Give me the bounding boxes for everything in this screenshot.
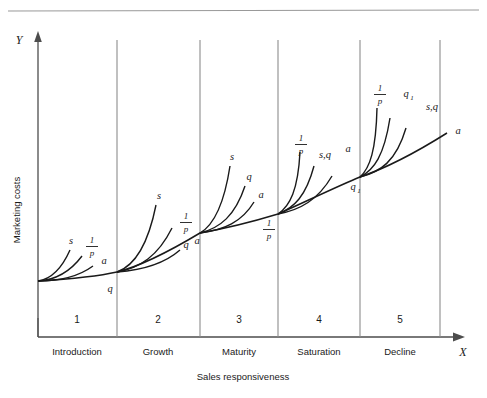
stage-name-decline: Decline: [384, 346, 416, 357]
branch-stage5-sq: [360, 128, 406, 177]
label-stage4-sq: s,q: [319, 149, 331, 160]
x-axis: [38, 333, 465, 342]
branch-stage4-sq: [278, 166, 314, 214]
label-stage1-s: s: [69, 235, 73, 246]
stage-number-4: 4: [316, 314, 322, 325]
node-label-stage5-q1: q 1: [350, 181, 360, 195]
x-axis-arrowhead: [453, 333, 465, 342]
node-label-stage4-inv-p: 1 p: [263, 218, 275, 241]
stage-name-maturity: Maturity: [222, 346, 256, 357]
stage-name-introduction: Introduction: [52, 346, 102, 357]
stage2-branches: [117, 205, 180, 272]
node-label-stage3-a: a: [194, 235, 199, 246]
figure-container: Y X Marketing costs Sales responsiveness…: [0, 0, 487, 398]
label-stage3-a: a: [258, 189, 263, 200]
branch-stage1-inv-p: [38, 256, 82, 281]
y-axis: [34, 31, 42, 337]
stage-number-2: 2: [155, 314, 161, 325]
x-axis-title: Sales responsiveness: [197, 371, 290, 382]
branch-stage1-s: [38, 250, 70, 281]
svg-text:1: 1: [267, 218, 272, 228]
svg-text:p: p: [89, 248, 95, 258]
y-axis-arrowhead: [34, 31, 42, 42]
branch-stage2-s: [117, 205, 156, 272]
label-stage4-inv-p: 1 p: [295, 133, 307, 156]
branch-stage4-a: [278, 176, 332, 214]
svg-text:p: p: [298, 146, 304, 156]
y-axis-title: Marketing costs: [11, 176, 22, 243]
svg-text:p: p: [377, 96, 383, 106]
marketing-costs-chart: Y X Marketing costs Sales responsiveness…: [0, 0, 487, 398]
label-stage3-q: q: [246, 171, 251, 182]
label-stage1-a: a: [101, 255, 106, 266]
stage5-branches: [360, 108, 406, 177]
label-stage5-inv-p: 1 p: [374, 83, 386, 106]
svg-text:1: 1: [90, 235, 95, 245]
label-stage4-a: a: [345, 143, 350, 154]
stage-name-growth: Growth: [143, 346, 174, 357]
label-stage3-s: s: [230, 151, 234, 162]
stage-dividers: [117, 40, 440, 337]
svg-text:1: 1: [184, 211, 189, 221]
stage-name-saturation: Saturation: [297, 346, 340, 357]
label-stage5-q1: q 1: [403, 88, 413, 102]
svg-text:q: q: [403, 88, 408, 99]
label-stage5-a: a: [455, 125, 460, 136]
x-axis-letter: X: [458, 345, 467, 359]
branch-stage5-inv-p: [360, 108, 377, 177]
label-stage2-q: q: [183, 239, 188, 250]
top-rule: [8, 10, 479, 11]
stage-number-5: 5: [397, 314, 403, 325]
svg-text:p: p: [266, 231, 272, 241]
label-stage2-s: s: [157, 190, 161, 201]
node-label-stage2-q: q: [107, 283, 112, 294]
label-stage1-inv-p: 1 p: [86, 235, 98, 258]
stage-number-3: 3: [236, 314, 242, 325]
stage4-branches: [278, 152, 332, 214]
label-stage5-sq: s,q: [426, 101, 438, 112]
svg-text:1: 1: [378, 83, 383, 93]
svg-text:1: 1: [410, 94, 414, 102]
branch-stage2-inv-p: [117, 228, 172, 272]
stage-number-1: 1: [74, 314, 80, 325]
svg-text:q: q: [350, 181, 355, 192]
branch-stage3-s: [200, 166, 230, 233]
y-axis-letter: Y: [16, 33, 24, 47]
svg-text:1: 1: [299, 133, 304, 143]
svg-text:p: p: [183, 224, 189, 234]
svg-text:1: 1: [357, 187, 361, 195]
branch-stage3-q: [200, 186, 245, 233]
label-stage2-inv-p: 1 p: [180, 211, 192, 234]
branch-stage5-q1: [360, 118, 390, 177]
main-curve: [38, 133, 447, 281]
